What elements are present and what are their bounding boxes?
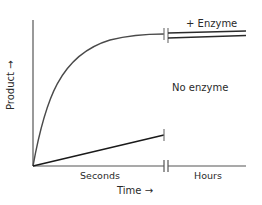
y-axis-title: Product → [6, 60, 16, 110]
no-enzyme-label: No enzyme [172, 83, 228, 93]
enzyme-plateau-line [168, 31, 246, 33]
no-enzyme-line [33, 135, 164, 166]
enzyme-label: + Enzyme [186, 19, 237, 29]
x-segment-hours-label: Hours [194, 171, 222, 181]
reaction-rate-chart [0, 0, 262, 205]
x-axis-title: Time → [117, 186, 153, 196]
enzyme-curve [33, 34, 164, 166]
no-enzyme-plateau-line [168, 36, 246, 39]
x-segment-seconds-label: Seconds [80, 171, 120, 181]
